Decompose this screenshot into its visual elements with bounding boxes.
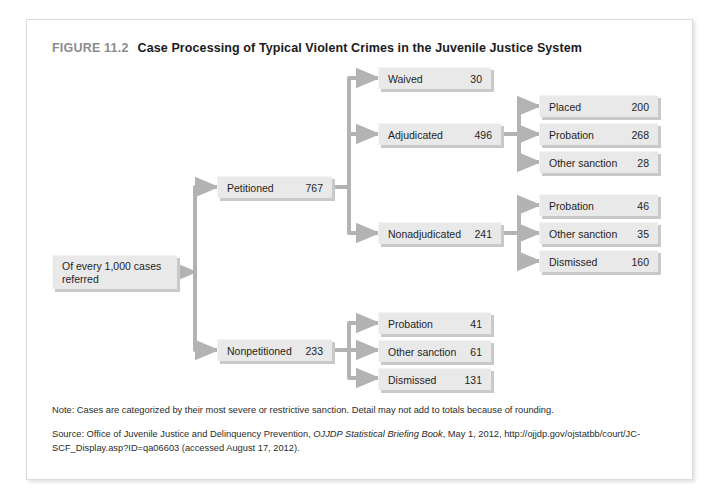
- node-nonpetitioned-probation-label: Probation: [388, 318, 433, 330]
- node-waived-value: 30: [470, 73, 482, 85]
- node-adjudicated-probation-value: 268: [631, 129, 649, 141]
- node-nonadjudicated-other-sanction[interactable]: Other sanction 35: [539, 222, 658, 244]
- figure-source-publication: OJJDP Statistical Briefing Book: [313, 429, 442, 439]
- figure-card: FIGURE 11.2Case Processing of Typical Vi…: [26, 19, 693, 480]
- node-adjudicated-other-sanction-value: 28: [637, 157, 649, 169]
- node-nonpetitioned-probation[interactable]: Probation 41: [378, 312, 491, 334]
- node-adjudicated-other-sanction-label: Other sanction: [549, 157, 617, 169]
- node-nonpetitioned-other-sanction[interactable]: Other sanction 61: [378, 340, 491, 362]
- node-adjudicated-probation-label: Probation: [549, 129, 594, 141]
- node-waived-label: Waived: [388, 73, 423, 85]
- node-nonpetitioned-other-sanction-label: Other sanction: [388, 346, 456, 358]
- node-adjudicated-probation[interactable]: Probation 268: [539, 123, 658, 145]
- node-petitioned[interactable]: Petitioned 767: [217, 176, 332, 198]
- node-placed-value: 200: [631, 101, 649, 113]
- node-nonadjudicated-other-sanction-value: 35: [637, 228, 649, 240]
- node-nonadjudicated-dismissed-value: 160: [631, 256, 649, 268]
- node-adjudicated-value: 496: [474, 129, 492, 141]
- figure-note: Note: Cases are categorized by their mos…: [52, 404, 672, 417]
- node-nonpetitioned-label: Nonpetitioned: [227, 345, 292, 357]
- node-waived[interactable]: Waived 30: [378, 67, 491, 89]
- node-nonpetitioned-value: 233: [305, 345, 323, 357]
- node-placed[interactable]: Placed 200: [539, 95, 658, 117]
- figure-source: Source: Office of Juvenile Justice and D…: [52, 428, 674, 455]
- node-nonadjudicated-probation-value: 46: [637, 200, 649, 212]
- node-nonadjudicated-probation-label: Probation: [549, 200, 594, 212]
- figure-source-prefix: Source: Office of Juvenile Justice and D…: [52, 429, 313, 439]
- node-nonpetitioned-dismissed-label: Dismissed: [388, 374, 436, 386]
- node-nonpetitioned-other-sanction-value: 61: [470, 346, 482, 358]
- node-nonpetitioned-probation-value: 41: [470, 318, 482, 330]
- node-nonadjudicated-probation[interactable]: Probation 46: [539, 194, 658, 216]
- node-root-line2: referred: [62, 273, 99, 285]
- node-nonadjudicated[interactable]: Nonadjudicated 241: [378, 222, 501, 244]
- node-nonadjudicated-other-sanction-label: Other sanction: [549, 228, 617, 240]
- node-nonadjudicated-label: Nonadjudicated: [388, 228, 461, 240]
- node-root-line1: Of every 1,000 cases: [62, 260, 161, 272]
- node-adjudicated-other-sanction[interactable]: Other sanction 28: [539, 151, 658, 173]
- node-nonpetitioned[interactable]: Nonpetitioned 233: [217, 339, 332, 361]
- node-nonadjudicated-value: 241: [474, 228, 492, 240]
- node-nonpetitioned-dismissed-value: 131: [464, 374, 482, 386]
- node-petitioned-label: Petitioned: [227, 182, 274, 194]
- node-nonadjudicated-dismissed-label: Dismissed: [549, 256, 597, 268]
- node-root[interactable]: Of every 1,000 cases referred: [52, 255, 177, 289]
- node-petitioned-value: 767: [305, 182, 323, 194]
- node-placed-label: Placed: [549, 101, 581, 113]
- node-adjudicated-label: Adjudicated: [388, 129, 443, 141]
- node-nonadjudicated-dismissed[interactable]: Dismissed 160: [539, 250, 658, 272]
- node-adjudicated[interactable]: Adjudicated 496: [378, 123, 501, 145]
- node-nonpetitioned-dismissed[interactable]: Dismissed 131: [378, 368, 491, 390]
